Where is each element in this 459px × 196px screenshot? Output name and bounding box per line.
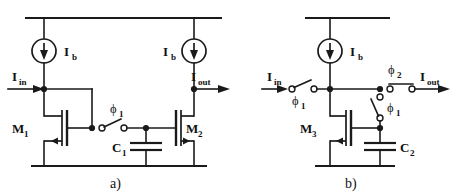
switch-b-phi1-hold[interactable] [371, 94, 383, 121]
label-phi1-b-hold: ϕ [387, 101, 394, 115]
label-ib-b-sub: b [358, 52, 363, 62]
circuit-diagram-svg: I b I in [0, 0, 459, 196]
label-ib-a-right-sub: b [171, 52, 176, 62]
label-ib-a-left: I [64, 44, 69, 59]
label-iout-b-sub: out [427, 77, 440, 87]
label-phi1-a-sub: 1 [119, 109, 124, 119]
label-iin-b-sub: in [274, 77, 282, 87]
current-source-a-right [182, 39, 206, 63]
label-m1-sub: 1 [24, 129, 29, 139]
switch-b-phi2-output[interactable] [387, 84, 415, 92]
label-ib-a-left-sub: b [72, 52, 77, 62]
label-c2-sub: 2 [410, 148, 415, 158]
label-iin-a-sub: in [19, 77, 27, 87]
panel-a: I b I in [8, 18, 230, 192]
label-iin-a: I [12, 69, 17, 84]
caption-panel-a: a) [110, 176, 121, 192]
label-c1: C [112, 140, 121, 155]
label-m3: M [300, 121, 312, 136]
label-m2: M [186, 121, 198, 136]
cap-c1 [130, 128, 162, 166]
label-phi1-b-input-sub: 1 [301, 101, 306, 111]
label-ib-b: I [350, 44, 355, 59]
node-gate-a [89, 125, 95, 131]
current-source-b [318, 39, 342, 63]
switch-b-phi1-input[interactable] [289, 80, 317, 92]
label-m1: M [12, 121, 24, 136]
label-phi2-b: ϕ [388, 63, 395, 77]
label-c2: C [400, 140, 409, 155]
circuit-figure: I b I in [0, 0, 459, 196]
node-hold-top-b [377, 86, 383, 92]
caption-panel-b: b) [345, 176, 357, 192]
label-phi2-b-sub: 2 [397, 70, 402, 80]
label-phi1-b-input: ϕ [292, 94, 299, 108]
label-iout-b: I [420, 69, 425, 84]
nmos-m3 [330, 110, 380, 166]
switch-a-phi1[interactable] [99, 119, 127, 131]
nmos-m1 [44, 110, 92, 166]
label-iout-a: I [191, 69, 196, 84]
label-iin-b: I [267, 69, 272, 84]
label-m3-sub: 3 [312, 129, 317, 139]
label-m2-sub: 2 [198, 129, 203, 139]
label-c1-sub: 1 [122, 148, 127, 158]
label-iout-a-sub: out [198, 77, 211, 87]
label-ib-a-right: I [163, 44, 168, 59]
label-phi1-b-hold-sub: 1 [396, 108, 401, 118]
cap-c2 [364, 128, 396, 166]
panel-b: I b I in ϕ 1 [262, 18, 450, 192]
current-source-a-left [32, 39, 56, 63]
label-phi1-a: ϕ [110, 102, 117, 116]
